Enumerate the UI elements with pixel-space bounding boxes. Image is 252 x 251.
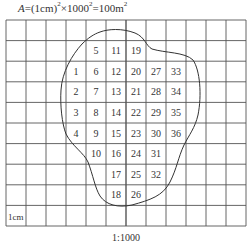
cell-number: 1 <box>66 62 86 82</box>
cell-number: 20 <box>126 62 146 82</box>
cell-number: 26 <box>126 185 146 205</box>
cell-number: 32 <box>146 165 166 185</box>
cell-number: 25 <box>126 165 146 185</box>
cell-number: 3 <box>66 103 86 123</box>
cell-number: 35 <box>166 103 186 123</box>
cell-number: 31 <box>146 144 166 164</box>
cell-number: 29 <box>146 103 166 123</box>
cell-number: 8 <box>86 103 106 123</box>
cell-number: 33 <box>166 62 186 82</box>
cell-number: 5 <box>86 41 106 61</box>
cell-number: 36 <box>166 124 186 144</box>
cell-number: 19 <box>126 41 146 61</box>
cell-number: 17 <box>106 165 126 185</box>
cell-number: 2 <box>66 82 86 102</box>
cell-number: 4 <box>66 124 86 144</box>
cell-number: 13 <box>106 82 126 102</box>
cell-number: 14 <box>106 103 126 123</box>
cell-number: 18 <box>106 185 126 205</box>
cell-number: 12 <box>106 62 126 82</box>
cell-number: 23 <box>126 124 146 144</box>
cell-number: 34 <box>166 82 186 102</box>
cell-number: 7 <box>86 82 106 102</box>
cell-number: 21 <box>126 82 146 102</box>
scale-label: 1:1000 <box>0 232 252 243</box>
cell-number: 22 <box>126 103 146 123</box>
cell-number: 15 <box>106 124 126 144</box>
cell-number: 28 <box>146 82 166 102</box>
cell-number: 16 <box>106 144 126 164</box>
cell-number: 9 <box>86 124 106 144</box>
cell-number: 24 <box>126 144 146 164</box>
cell-number: 10 <box>86 144 106 164</box>
cell-number: 6 <box>86 62 106 82</box>
cell-unit-label: 1cm <box>8 212 24 222</box>
cell-number: 11 <box>106 41 126 61</box>
cell-number: 30 <box>146 124 166 144</box>
cell-number: 27 <box>146 62 166 82</box>
